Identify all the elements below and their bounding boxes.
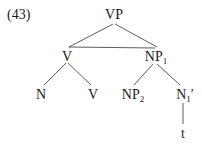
branch-vp-np1 (115, 24, 157, 47)
node-subscript: 1 (163, 56, 168, 66)
node-subscript: 2 (140, 94, 145, 104)
example-number: (43) (7, 8, 30, 22)
node-n1-bar: N1′ (176, 88, 194, 102)
node-np2: NP2 (122, 88, 144, 102)
node-label: NP (145, 49, 163, 64)
node-v: V (62, 50, 72, 64)
node-label: NP (122, 87, 140, 102)
branch-v-n (44, 63, 66, 85)
node-label: N (36, 87, 46, 102)
branch-np1-np2 (134, 64, 153, 85)
node-label: N (176, 87, 186, 102)
branch-vp-v (69, 24, 113, 47)
branch-v-np1 (69, 47, 155, 48)
node-n: N (36, 88, 46, 102)
branch-np1-n1bar (157, 64, 180, 85)
node-prime: ′ (191, 87, 194, 102)
node-label: V (62, 49, 72, 64)
node-np1: NP1 (145, 50, 167, 64)
node-vp: VP (105, 8, 123, 22)
branch-v-v (68, 63, 91, 85)
node-v-leaf: V (88, 88, 98, 102)
node-label: V (88, 87, 98, 102)
node-trace-t: t (181, 127, 185, 141)
